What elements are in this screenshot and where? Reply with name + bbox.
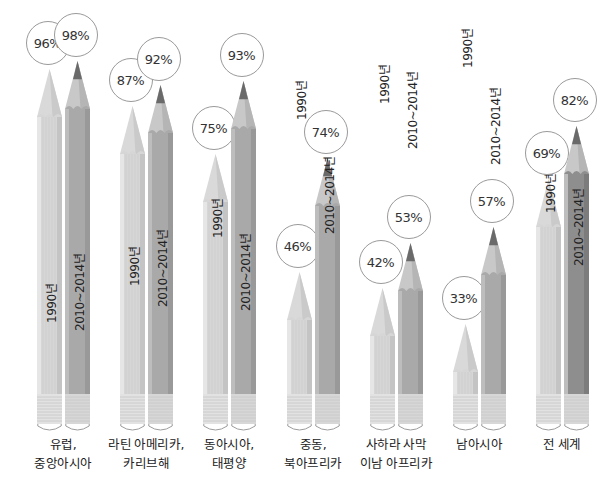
value-label: 33%: [442, 276, 486, 320]
pencil-bar: [398, 243, 423, 434]
value-label: 74%: [304, 110, 348, 154]
category-label-line: 이남 아프리카: [341, 454, 451, 473]
value-label: 98%: [54, 13, 98, 57]
value-label: 53%: [387, 195, 431, 239]
pencil-bar: [37, 69, 62, 434]
value-label: 42%: [359, 240, 403, 284]
value-label: 82%: [553, 78, 597, 122]
pencil-bar: [287, 272, 312, 434]
series-label: 1990년: [375, 65, 392, 104]
series-label: 1990년: [125, 247, 142, 286]
value-label: 57%: [470, 179, 514, 223]
series-label: 1990년: [292, 81, 309, 120]
value-label: 69%: [525, 131, 569, 175]
series-label: 1990년: [458, 29, 475, 68]
category-label: 전 세계: [507, 435, 612, 454]
pencil-bar: [203, 154, 228, 434]
category-label-line: 전 세계: [507, 435, 612, 454]
value-label: 93%: [220, 33, 264, 77]
pencil-bar: [370, 288, 395, 434]
series-label: 1990년: [541, 174, 558, 213]
series-label: 2010~2014년: [569, 189, 586, 266]
pencil-bar: [453, 324, 478, 434]
value-label: 92%: [137, 37, 181, 81]
series-label: 2010~2014년: [70, 254, 87, 331]
pencil-bar: [481, 227, 506, 434]
pencil-bar: [564, 126, 589, 434]
series-label: 2010~2014년: [403, 72, 420, 149]
value-label: 75%: [192, 106, 236, 150]
series-label: 2010~2014년: [486, 88, 503, 165]
pencil-bar: [65, 61, 90, 434]
value-label: 46%: [276, 224, 320, 268]
pencil-bar: [536, 179, 561, 434]
pencil-chart: 1990년96%2010~2014년98%유럽,중앙아시아1990년87%201…: [0, 0, 612, 485]
series-label: 2010~2014년: [320, 157, 337, 234]
series-label: 2010~2014년: [236, 234, 253, 311]
series-label: 1990년: [208, 199, 225, 238]
series-label: 2010~2014년: [153, 230, 170, 307]
series-label: 1990년: [42, 284, 59, 323]
